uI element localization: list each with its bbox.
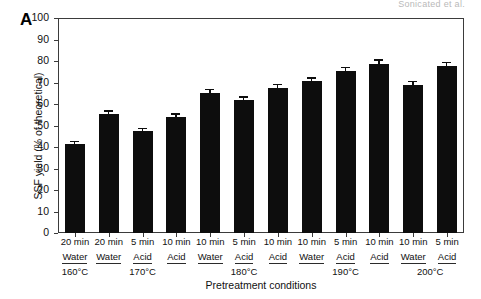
y-axis: 0102030405060708090100: [0, 18, 58, 233]
error-bar-cap: [442, 62, 451, 63]
running-head: Sonicated et al.: [398, 0, 465, 7]
bar[interactable]: [302, 81, 322, 233]
y-axis-tick-label: 100: [9, 11, 49, 23]
bar[interactable]: [336, 71, 356, 233]
error-bar-cap: [239, 96, 248, 97]
error-bar: [74, 142, 75, 144]
bar-group: [295, 18, 329, 233]
y-axis-tick-label: 30: [9, 162, 49, 174]
bar-group: [193, 18, 227, 233]
bar-group: [92, 18, 126, 233]
x-axis-temperature-group-label: 200°C: [396, 266, 464, 277]
y-axis-tick-label: 70: [9, 76, 49, 88]
bar-group: [329, 18, 363, 233]
bar[interactable]: [133, 131, 153, 233]
error-bar-cap: [408, 81, 417, 82]
error-bar-cap: [104, 110, 113, 111]
bar[interactable]: [369, 64, 389, 233]
x-axis-medium-label-text: Acid: [167, 251, 185, 264]
x-axis-medium-label-text: Water: [96, 251, 121, 264]
error-bar-cap: [171, 113, 180, 114]
y-axis-tick-label: 40: [9, 140, 49, 152]
error-bar: [108, 112, 109, 115]
bar[interactable]: [65, 144, 85, 233]
y-axis-tick-label: 0: [9, 226, 49, 238]
x-axis-medium-label-text: Water: [401, 251, 426, 264]
x-axis-medium-label-text: Water: [198, 251, 223, 264]
error-bar: [446, 63, 447, 66]
bar-group: [126, 18, 160, 233]
error-bar: [378, 61, 379, 64]
bar-group: [58, 18, 92, 233]
error-bar-cap: [341, 67, 350, 68]
bar-group: [362, 18, 396, 233]
bar[interactable]: [234, 100, 254, 233]
error-bar-cap: [273, 84, 282, 85]
y-axis-tick-label: 80: [9, 54, 49, 66]
x-axis-medium-label-text: Acid: [336, 251, 354, 264]
error-bar: [243, 98, 244, 100]
bar[interactable]: [403, 85, 423, 233]
bar[interactable]: [437, 66, 457, 233]
y-axis-tick-mark: [54, 233, 58, 234]
error-bar: [311, 79, 312, 82]
x-axis-temperature-group-label: 160°C: [58, 266, 92, 277]
y-axis-tick-label: 90: [9, 33, 49, 45]
bar[interactable]: [166, 117, 186, 233]
x-axis-medium-label-text: Acid: [133, 251, 151, 264]
x-axis-title: Pretreatment conditions: [58, 279, 464, 291]
error-bar-cap: [205, 89, 214, 90]
y-axis-tick-label: 50: [9, 119, 49, 131]
x-axis-medium-label: Acid: [423, 251, 471, 262]
error-bar-cap: [374, 59, 383, 60]
bar[interactable]: [268, 88, 288, 233]
x-axis-medium-label-text: Acid: [438, 251, 456, 264]
error-bar: [209, 90, 210, 93]
y-axis-tick-label: 20: [9, 183, 49, 195]
x-axis-medium-label-text: Acid: [235, 251, 253, 264]
error-bar: [175, 115, 176, 117]
bar-group: [227, 18, 261, 233]
x-axis-medium-label-text: Acid: [269, 251, 287, 264]
y-axis-tick-label: 60: [9, 97, 49, 109]
y-axis-tick-label: 10: [9, 205, 49, 217]
x-axis-temperature-group-label: 180°C: [193, 266, 295, 277]
bar-group: [396, 18, 430, 233]
x-axis-medium-label-text: Water: [299, 251, 324, 264]
x-axis-medium-label-text: Water: [62, 251, 87, 264]
x-axis-medium-label-text: Acid: [370, 251, 388, 264]
error-bar: [277, 85, 278, 87]
error-bar: [345, 68, 346, 71]
error-bar-cap: [307, 77, 316, 78]
bar-group: [261, 18, 295, 233]
x-axis-temperature-group-label: 170°C: [92, 266, 194, 277]
x-axis-time-label: 5 min: [423, 236, 471, 247]
x-axis-temperature-group-label: 190°C: [295, 266, 397, 277]
bar-group: [430, 18, 464, 233]
x-axis-labels: 20 minWater20 minWater5 minAcid10 minAci…: [58, 236, 464, 282]
bar-group: [159, 18, 193, 233]
error-bar-cap: [138, 128, 147, 129]
error-bar-cap: [70, 141, 79, 142]
error-bar: [412, 82, 413, 84]
bar[interactable]: [200, 93, 220, 233]
bars-area: [58, 18, 464, 233]
bar[interactable]: [99, 114, 119, 233]
error-bar: [142, 129, 143, 131]
